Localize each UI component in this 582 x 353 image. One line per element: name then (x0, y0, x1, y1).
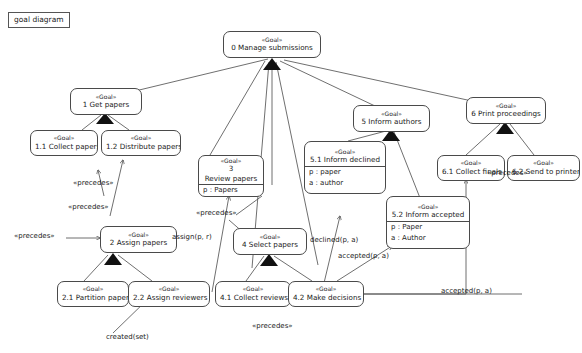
stereotype-label: «Goal» (387, 202, 469, 210)
goal-node-collect-papers[interactable]: «Goal» 1.1 Collect papers (30, 130, 98, 156)
stereotype-label: «Goal» (31, 133, 97, 141)
attribute-row: p : Paper (387, 222, 469, 233)
edge-label-assign-p-r: assign(p, r) (172, 234, 212, 241)
goal-name: Review papers (199, 174, 263, 184)
stereotype-label: «Goal» (289, 284, 363, 292)
goal-name: 5.2 Inform accepted (387, 210, 469, 221)
goal-name: 1.1 Collect papers (31, 142, 97, 153)
stereotype-label: «Goal» (199, 156, 263, 164)
stereotype-label: «Goal» (101, 230, 176, 238)
goal-name: 4.1 Collect reviews (216, 293, 290, 304)
goal-node-assign-reviewers[interactable]: «Goal» 2.2 Assign reviewers (128, 281, 210, 307)
frame-label: goal diagram (8, 12, 70, 28)
goal-name: 2.2 Assign reviewers (129, 293, 209, 304)
edge-label-accepted-p-a-inform: accepted(p, a) (338, 253, 389, 260)
goal-node-assign-papers[interactable]: «Goal» 2 Assign papers (100, 226, 177, 253)
stereotype-label: «Goal» (234, 232, 306, 240)
goal-node-make-decisions[interactable]: «Goal» 4.2 Make decisions (288, 281, 364, 307)
stereotype-label: «Goal» (71, 92, 141, 100)
stereotype-label: «Goal» (467, 101, 545, 109)
attributes-compartment: p : Papers (199, 184, 263, 196)
goal-node-inform-authors[interactable]: «Goal» 5 Inform authors (353, 105, 430, 132)
stereotype-label: «Goal» (129, 284, 209, 292)
edge-label-precedes-reviews-decisions: «precedes» (252, 323, 293, 330)
goal-node-select-papers[interactable]: «Goal» 4 Select papers (233, 228, 307, 255)
goal-node-review-papers[interactable]: «Goal» 3 Review papers p : Papers (198, 155, 264, 197)
attribute-row: p : Papers (199, 185, 263, 196)
goal-node-manage-submissions[interactable]: «Goal» 0 Manage submissions (223, 31, 321, 58)
attributes-compartment: p : paper a : author (305, 166, 385, 189)
goal-name: 2.1 Partition papers (58, 293, 128, 304)
stereotype-label: «Goal» (224, 35, 320, 43)
stereotype-label: «Goal» (508, 158, 579, 166)
attribute-row: p : paper (305, 167, 385, 178)
stereotype-label: «Goal» (216, 284, 290, 292)
goal-name: 2 Assign papers (101, 238, 176, 249)
stereotype-label: «Goal» (102, 133, 180, 141)
goal-name: 6 Print proceedings (467, 109, 545, 120)
goal-diagram-canvas: goal diagram «Goal» 0 Manage submissions… (0, 0, 582, 353)
attribute-row: a : author (305, 178, 385, 189)
goal-node-inform-accepted[interactable]: «Goal» 5.2 Inform accepted p : Paper a :… (386, 196, 470, 249)
edge-label-precedes-left: «precedes» (14, 233, 55, 240)
goal-number: 3 (199, 164, 263, 174)
edge-label-declined-p-a: declined(p, a) (310, 237, 358, 244)
goal-name: 4 Select papers (234, 240, 306, 251)
edge-label-precedes-get-papers: «precedes» (73, 180, 114, 187)
stereotype-label: «Goal» (438, 158, 504, 166)
goal-node-print-proceedings[interactable]: «Goal» 6 Print proceedings (466, 97, 546, 124)
stereotype-label: «Goal» (354, 109, 429, 117)
goal-node-distribute-papers[interactable]: «Goal» 1.2 Distribute papers (101, 130, 181, 156)
goal-name: 5.1 Inform declined (305, 155, 385, 166)
goal-name: 1 Get papers (71, 100, 141, 111)
edge-label-accepted-p-a-finals: accepted(p, a) (441, 288, 492, 295)
edge-label-precedes-assign: «precedes» (68, 204, 109, 211)
edge-label-precedes-finals-printer: «precedes» (487, 170, 528, 177)
goal-name: 5 Inform authors (354, 117, 429, 128)
goal-name: 4.2 Make decisions (289, 293, 363, 304)
goal-name: 1.2 Distribute papers (102, 142, 180, 153)
goal-name: 0 Manage submissions (224, 43, 320, 54)
edge-label-created-set: created(set) (106, 334, 149, 341)
stereotype-label: «Goal» (58, 284, 128, 292)
attribute-row: a : Author (387, 233, 469, 244)
goal-node-get-papers[interactable]: «Goal» 1 Get papers (70, 88, 142, 115)
goal-node-partition-papers[interactable]: «Goal» 2.1 Partition papers (57, 281, 129, 307)
goal-node-collect-reviews[interactable]: «Goal» 4.1 Collect reviews (215, 281, 291, 307)
edge-label-precedes-review-select: «precedes» (196, 210, 237, 217)
goal-node-send-to-printer[interactable]: «Goal» 6.2 Send to printer (507, 155, 580, 181)
goal-node-collect-finals[interactable]: «Goal» 6.1 Collect finals (437, 155, 505, 181)
attributes-compartment: p : Paper a : Author (387, 221, 469, 244)
stereotype-label: «Goal» (305, 147, 385, 155)
goal-node-inform-declined[interactable]: «Goal» 5.1 Inform declined p : paper a :… (304, 141, 386, 194)
